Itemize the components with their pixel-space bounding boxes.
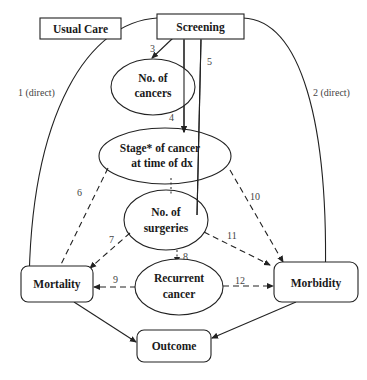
mortality-label: Mortality <box>33 278 81 291</box>
edge-label-5: 5 <box>207 56 212 67</box>
edge-2-direct <box>243 18 326 290</box>
edge-label-6: 6 <box>77 187 82 198</box>
surgeries-label-2: surgeries <box>144 222 189 235</box>
edge-label-11: 11 <box>227 230 237 241</box>
node-screening: Screening <box>157 14 244 39</box>
recurrent-label-2: cancer <box>163 288 196 300</box>
edge-label-2: 2 (direct) <box>313 87 350 99</box>
recurrent-label-1: Recurrent <box>154 272 204 284</box>
edge-label-4: 4 <box>169 112 174 123</box>
edge-morbidity-outcome <box>212 302 296 338</box>
node-recurrent-cancer: Recurrent cancer <box>135 259 223 315</box>
node-outcome: Outcome <box>137 330 211 362</box>
surgeries-label-1: No. of <box>151 206 181 218</box>
edge-mortality-outcome <box>74 302 136 342</box>
node-mortality: Mortality <box>21 266 93 302</box>
usual-care-label: Usual Care <box>53 23 108 35</box>
node-usual-care: Usual Care <box>40 18 121 39</box>
edge-label-12: 12 <box>235 275 245 286</box>
edge-5-overlay <box>197 40 201 215</box>
edge-label-9: 9 <box>113 274 118 285</box>
edge-label-1: 1 (direct) <box>18 87 55 99</box>
stage-label-2: at time of dx <box>131 157 193 169</box>
morbidity-label: Morbidity <box>291 277 342 290</box>
edge-3 <box>152 38 173 58</box>
edge-11 <box>204 232 270 265</box>
node-no-of-surgeries: No. of surgeries <box>124 190 208 250</box>
node-stage-of-cancer: Stage* of cancer at time of dx <box>99 128 231 184</box>
node-no-of-cancers: No. of cancers <box>111 59 195 115</box>
edge-label-7: 7 <box>109 234 114 245</box>
edge-label-3: 3 <box>150 43 155 54</box>
causal-pathway-diagram: Usual Care Screening No. of cancers Stag… <box>0 0 367 380</box>
edge-label-10: 10 <box>250 191 260 202</box>
edge-1-direct <box>29 18 157 290</box>
screening-label: Screening <box>176 21 225 34</box>
no-cancers-label-1: No. of <box>138 72 168 84</box>
edge-10 <box>230 170 283 262</box>
stage-label-1: Stage* of cancer <box>120 142 200 155</box>
outcome-label: Outcome <box>152 340 197 352</box>
edge-label-8: 8 <box>183 251 188 262</box>
no-cancers-label-2: cancers <box>134 87 172 99</box>
node-morbidity: Morbidity <box>274 262 358 302</box>
